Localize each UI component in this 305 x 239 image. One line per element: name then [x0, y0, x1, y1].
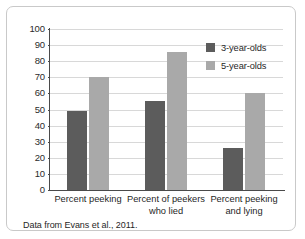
legend-label-2: 5-year-olds — [221, 61, 266, 71]
bar-1-3-year-olds — [67, 111, 87, 190]
x-axis-label-3-line-2: and lying — [199, 206, 289, 218]
bar-1-5-year-olds — [89, 77, 109, 190]
gridline-100 — [49, 29, 283, 30]
bar-2-5-year-olds — [167, 52, 187, 190]
y-tick-label-30: 30 — [11, 137, 45, 147]
legend-item-2: 5-year-olds — [206, 58, 266, 73]
y-tick-label-50: 50 — [11, 105, 45, 115]
y-tick-label-10: 10 — [11, 169, 45, 179]
y-tick-label-100: 100 — [11, 24, 45, 34]
source-note: Data from Evans et al., 2011. — [23, 220, 137, 230]
y-tick-label-0: 0 — [11, 185, 45, 195]
figure-frame: 0102030405060708090100 Percent peekingPe… — [6, 6, 296, 231]
y-tick-label-20: 20 — [11, 153, 45, 163]
y-tick-label-80: 80 — [11, 56, 45, 66]
y-tick-label-70: 70 — [11, 72, 45, 82]
y-axis-ticks: 0102030405060708090100 — [7, 7, 45, 190]
legend-swatch-icon-2 — [206, 61, 215, 70]
x-axis-label-3-line-1: Percent peeking — [199, 194, 289, 206]
legend-label-1: 3-year-olds — [221, 43, 266, 53]
x-axis-label-2: Percent of peekerswho lied — [121, 194, 211, 217]
y-tick-label-60: 60 — [11, 88, 45, 98]
bar-3-3-year-olds — [223, 148, 243, 190]
y-axis-line — [49, 28, 50, 191]
bar-2-3-year-olds — [145, 101, 165, 190]
figure-bar-chart: 0102030405060708090100 Percent peekingPe… — [0, 0, 305, 239]
y-tick-label-90: 90 — [11, 40, 45, 50]
gridline-70 — [49, 77, 283, 78]
y-tick-label-40: 40 — [11, 121, 45, 131]
x-axis-label-2-line-2: who lied — [121, 206, 211, 218]
x-axis-label-1-line-1: Percent peeking — [43, 194, 133, 206]
legend-item-1: 3-year-olds — [206, 40, 266, 55]
bar-3-5-year-olds — [245, 93, 265, 190]
x-axis-label-1: Percent peeking — [43, 194, 133, 206]
chart-legend: 3-year-olds5-year-olds — [206, 40, 266, 76]
x-axis-label-3: Percent peekingand lying — [199, 194, 289, 217]
x-axis-label-2-line-1: Percent of peekers — [121, 194, 211, 206]
x-axis-line — [49, 190, 285, 191]
legend-swatch-icon-1 — [206, 43, 215, 52]
